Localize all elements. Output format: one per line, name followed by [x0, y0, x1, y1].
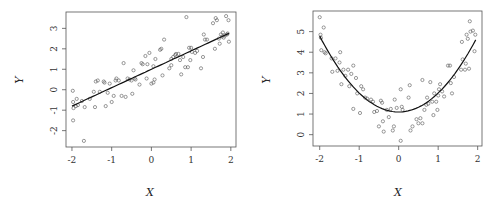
data-point	[92, 90, 95, 93]
x-axis-label: X	[393, 186, 403, 199]
y-tick-label: 2	[296, 91, 306, 97]
data-point	[411, 125, 414, 128]
data-point	[407, 96, 410, 99]
y-tick-label: 1	[296, 111, 306, 117]
y-axis-ticks: 012345	[296, 28, 313, 137]
y-tick-label: 4	[296, 49, 306, 55]
data-point	[392, 125, 395, 128]
figure: -2-1012 -2-10123 X Y -2-1012 012345 X Y	[0, 0, 500, 207]
data-point	[443, 95, 446, 98]
data-point	[177, 52, 180, 55]
plot-frame	[313, 11, 482, 146]
x-tick-label: -1	[355, 154, 364, 164]
data-point	[319, 33, 322, 36]
data-point	[460, 40, 463, 43]
data-point	[362, 88, 365, 91]
data-point	[415, 118, 418, 121]
data-point	[225, 15, 228, 18]
data-point	[194, 51, 197, 54]
data-point	[354, 76, 357, 79]
y-tick-label: 3	[296, 70, 306, 76]
data-point	[122, 62, 125, 65]
data-point	[421, 122, 424, 125]
data-point	[75, 97, 78, 100]
data-point	[110, 100, 113, 103]
data-point	[389, 107, 392, 110]
y-tick-label: 3	[49, 25, 59, 31]
x-tick-label: 0	[149, 155, 155, 165]
data-point	[227, 40, 230, 43]
data-point	[432, 114, 435, 117]
data-point	[112, 94, 115, 97]
x-tick-label: 2	[228, 155, 234, 165]
data-point	[421, 78, 424, 81]
linear-scatter-plot: -2-1012 -2-10123 X Y	[13, 12, 236, 199]
data-point	[360, 85, 363, 88]
data-point	[185, 16, 188, 19]
data-point	[227, 19, 230, 22]
data-point	[358, 111, 361, 114]
x-tick-label: 0	[396, 154, 402, 164]
data-point	[163, 38, 166, 41]
data-point	[399, 88, 402, 91]
data-point	[199, 67, 202, 70]
x-axis-ticks: -2-1012	[68, 147, 234, 165]
data-point	[338, 61, 341, 64]
data-point	[426, 96, 429, 99]
data-point	[382, 130, 385, 133]
data-point	[134, 78, 137, 81]
data-point	[83, 106, 86, 109]
x-tick-label: 1	[435, 154, 441, 164]
y-tick-label: 1	[49, 66, 59, 72]
data-point	[202, 33, 205, 36]
data-point	[417, 122, 420, 125]
data-point	[205, 38, 208, 41]
data-point	[339, 51, 342, 54]
data-point	[395, 106, 398, 109]
regression-line	[72, 33, 229, 106]
data-point	[131, 92, 134, 95]
data-point	[168, 67, 171, 70]
data-point	[467, 67, 470, 70]
y-tick-label: 0	[49, 87, 59, 93]
data-point	[180, 73, 183, 76]
data-point	[153, 78, 156, 81]
data-point	[104, 105, 107, 108]
data-point	[145, 77, 148, 80]
data-point	[189, 59, 192, 62]
y-tick-label: 5	[296, 28, 306, 34]
data-point	[439, 83, 442, 86]
y-tick-label: -2	[49, 126, 59, 135]
data-point	[352, 107, 355, 110]
data-point	[435, 100, 438, 103]
data-point	[466, 37, 469, 40]
data-point	[387, 116, 390, 119]
data-point	[106, 91, 109, 94]
data-point	[71, 89, 74, 92]
x-tick-label: -1	[107, 155, 116, 165]
data-point	[322, 26, 325, 29]
y-tick-label: -1	[49, 106, 59, 115]
data-point	[132, 69, 135, 72]
data-points	[318, 16, 477, 143]
plot-frame	[66, 12, 236, 147]
quadratic-fit-curve	[320, 36, 476, 112]
data-point	[221, 31, 224, 34]
data-point	[211, 22, 214, 25]
x-axis-ticks: -2-1012	[315, 146, 480, 164]
data-point	[93, 106, 96, 109]
quadratic-scatter-plot: -2-1012 012345 X Y	[260, 11, 482, 199]
data-point	[352, 64, 355, 67]
y-axis-label: Y	[13, 75, 26, 84]
data-point	[433, 92, 436, 95]
data-point	[218, 42, 221, 45]
data-point	[342, 68, 345, 71]
data-point	[408, 84, 411, 87]
data-point	[178, 59, 181, 62]
data-point	[201, 55, 204, 58]
data-point	[450, 92, 453, 95]
data-point	[399, 139, 402, 142]
data-point	[377, 125, 380, 128]
data-point	[429, 81, 432, 84]
y-tick-label: 0	[296, 132, 306, 138]
